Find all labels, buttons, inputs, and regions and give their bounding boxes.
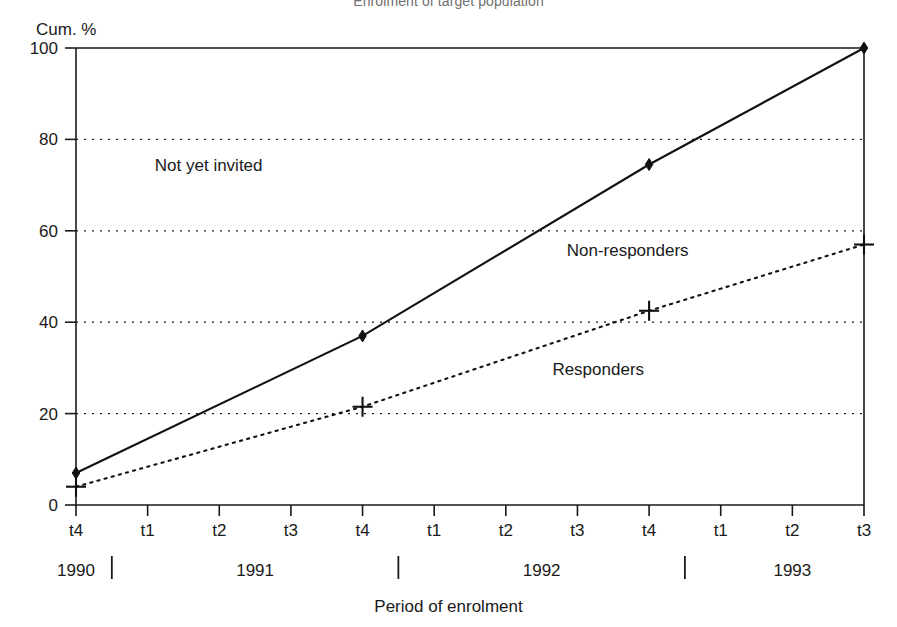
y-tick-label-20: 20 [39, 405, 58, 424]
marker-diamond-0-3 [860, 42, 868, 54]
x-tick-label-6: t2 [499, 521, 513, 540]
y-axis-ticks: 020406080100 [30, 39, 76, 515]
x-tick-label-7: t3 [570, 521, 584, 540]
year-label-1993: 1993 [773, 561, 811, 580]
year-axis: 1990199119921993 [57, 556, 811, 580]
x-tick-label-5: t1 [427, 521, 441, 540]
x-tick-label-4: t4 [355, 521, 369, 540]
x-tick-label-8: t4 [642, 521, 656, 540]
y-tick-label-100: 100 [30, 39, 58, 58]
y-tick-label-60: 60 [39, 222, 58, 241]
data-markers [66, 42, 874, 497]
axes [76, 48, 864, 505]
plot-area: 020406080100 t4t1t2t3t4t1t2t3t4t1t2t3 No… [0, 0, 897, 627]
y-tick-label-0: 0 [49, 496, 58, 515]
year-label-1992: 1992 [523, 561, 561, 580]
marker-plus-1-1 [353, 397, 373, 417]
year-label-1990: 1990 [57, 561, 95, 580]
annotation-not-yet-invited: Not yet invited [155, 156, 263, 175]
y-tick-label-40: 40 [39, 313, 58, 332]
year-label-1991: 1991 [236, 561, 274, 580]
x-tick-label-2: t2 [212, 521, 226, 540]
marker-diamond-0-2 [645, 159, 653, 171]
series-line-non-responders [76, 48, 864, 473]
chart-figure: Enrolment of target population Cum. % Pe… [0, 0, 897, 627]
x-tick-label-3: t3 [284, 521, 298, 540]
marker-plus-1-2 [639, 301, 659, 321]
x-tick-label-10: t2 [785, 521, 799, 540]
x-tick-label-9: t1 [714, 521, 728, 540]
marker-plus-1-0 [66, 477, 86, 497]
x-tick-label-11: t3 [857, 521, 871, 540]
x-tick-label-1: t1 [141, 521, 155, 540]
annotation-responders: Responders [552, 360, 644, 379]
x-axis-ticks: t4t1t2t3t4t1t2t3t4t1t2t3 [69, 505, 871, 540]
data-series [76, 48, 864, 487]
gridlines [76, 139, 864, 413]
marker-plus-1-3 [854, 235, 874, 255]
marker-diamond-0-1 [359, 330, 367, 342]
y-tick-label-80: 80 [39, 130, 58, 149]
annotation-non-responders: Non-responders [567, 241, 689, 260]
x-tick-label-0: t4 [69, 521, 83, 540]
series-line-responders [76, 245, 864, 487]
